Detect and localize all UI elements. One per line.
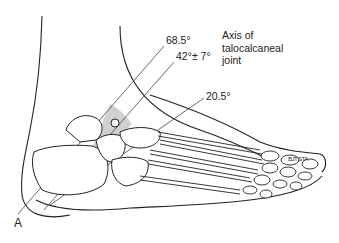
- joint-marker: [111, 119, 119, 127]
- angle-label-20-5: 20.5°: [206, 90, 231, 102]
- axis-label-line: talocalcaneal: [222, 42, 283, 55]
- metatarsals: [140, 132, 264, 194]
- axis-label-line: joint: [222, 54, 283, 67]
- artist-signature: BJT STA: [288, 156, 308, 162]
- angle-label-42: 42°± 7°: [176, 50, 211, 62]
- cuboid: [112, 157, 149, 186]
- tarsal-bones: [32, 116, 160, 195]
- panel-letter: A: [14, 216, 22, 230]
- talus-dome: [66, 116, 102, 142]
- calcaneus: [32, 145, 108, 195]
- foot-diagram: 68.5° 42°± 7° 20.5° Axis of talocalcanea…: [0, 0, 339, 243]
- angle-label-68-5: 68.5°: [166, 34, 191, 46]
- axis-label: Axis of talocalcaneal joint: [222, 29, 283, 67]
- cuneiforms: [120, 128, 160, 149]
- axis-label-line: Axis of: [222, 29, 283, 42]
